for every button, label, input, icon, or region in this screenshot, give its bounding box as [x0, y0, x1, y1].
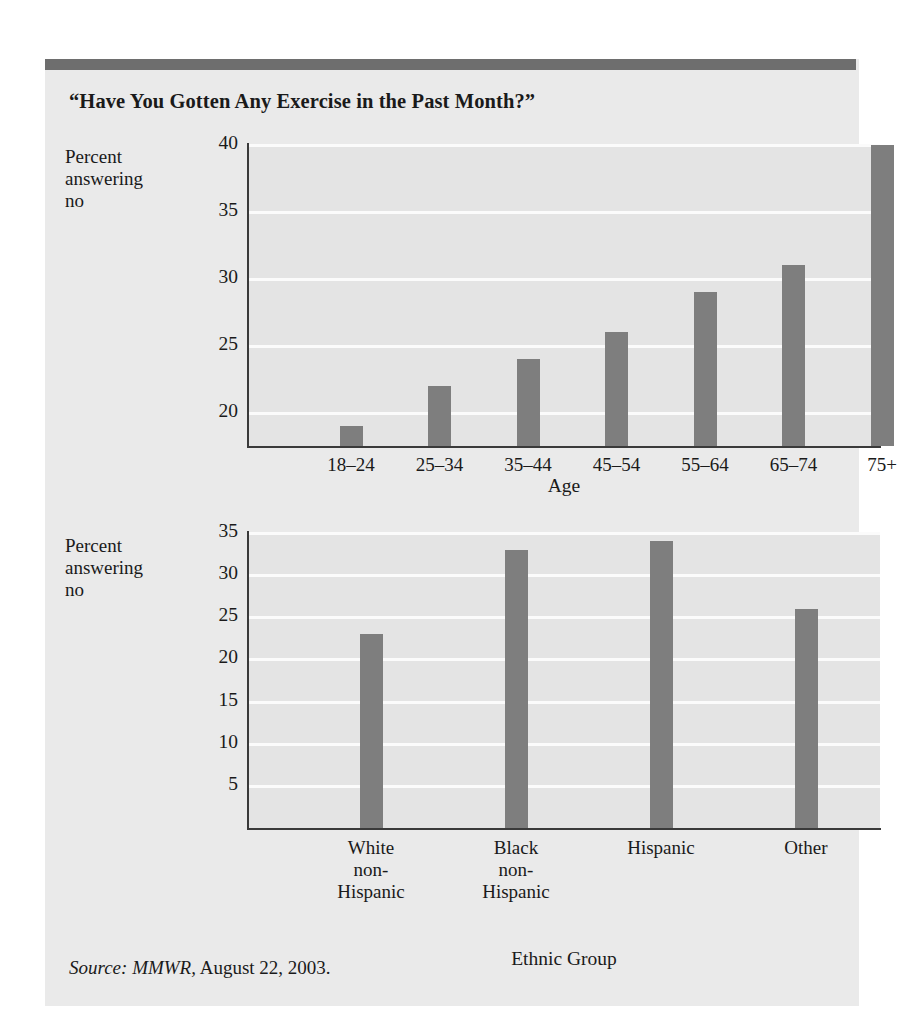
y-axis-caption-ethnic: Percent answering no [65, 535, 143, 602]
bar [428, 386, 451, 446]
gridline [248, 701, 880, 704]
y-tick-label: 15 [186, 689, 238, 711]
y-axis-line-age [247, 143, 249, 448]
chart-age: Percent answering no Age 202530354018–24… [45, 59, 859, 499]
x-axis-title-ethnic: Ethnic Group [248, 948, 880, 970]
bar [360, 634, 383, 828]
source-label: Source: MMWR, [69, 957, 196, 978]
y-axis-caption-age: Percent answering no [65, 146, 143, 213]
source-date: August 22, 2003. [196, 957, 331, 978]
gridline [248, 785, 880, 788]
gridline [248, 616, 880, 619]
y-tick-label: 35 [186, 520, 238, 542]
y-axis-line-ethnic [247, 531, 249, 830]
x-tick-label: Black non- Hispanic [441, 837, 591, 903]
y-axis-caption-line-2: answering [65, 557, 143, 579]
y-tick-label: 25 [186, 333, 238, 355]
y-tick-label: 25 [186, 604, 238, 626]
y-axis-caption-line-1: Percent [65, 535, 143, 557]
figure-panel: “Have You Gotten Any Exercise in the Pas… [45, 59, 859, 1006]
y-axis-caption-line-3: no [65, 579, 143, 601]
y-tick-label: 30 [186, 266, 238, 288]
bar [517, 359, 540, 446]
gridline [248, 532, 880, 535]
y-axis-caption-line-1: Percent [65, 146, 143, 168]
chart-ethnic: Percent answering no Ethnic Group 510152… [45, 459, 859, 979]
bar [782, 265, 805, 446]
x-axis-line-ethnic [247, 828, 881, 830]
y-axis-caption-line-2: answering [65, 168, 143, 190]
y-tick-label: 35 [186, 199, 238, 221]
bar [795, 609, 818, 828]
y-tick-label: 20 [186, 646, 238, 668]
bar [605, 332, 628, 446]
x-tick-label: Other [731, 837, 881, 859]
bar [505, 550, 528, 828]
x-tick-label: Hispanic [586, 837, 736, 859]
plot-area-ethnic [248, 533, 880, 828]
gridline [248, 574, 880, 577]
bar [340, 426, 363, 446]
gridline [248, 144, 880, 147]
x-tick-label: White non- Hispanic [296, 837, 446, 903]
plot-area-age [248, 145, 880, 446]
source-note: Source: MMWR, August 22, 2003. [69, 957, 331, 979]
bar [694, 292, 717, 446]
y-tick-label: 5 [186, 773, 238, 795]
x-axis-line-age [247, 446, 881, 448]
bar [650, 541, 673, 828]
y-tick-label: 20 [186, 400, 238, 422]
y-axis-caption-line-3: no [65, 190, 143, 212]
gridline [248, 211, 880, 214]
y-tick-label: 40 [186, 132, 238, 154]
y-tick-label: 30 [186, 562, 238, 584]
y-tick-label: 10 [186, 731, 238, 753]
gridline [248, 743, 880, 746]
bar [871, 145, 894, 446]
gridline [248, 658, 880, 661]
